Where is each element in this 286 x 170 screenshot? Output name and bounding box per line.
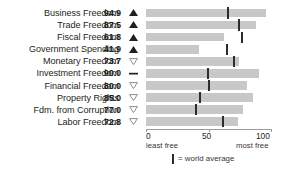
row-plot-area — [146, 80, 272, 92]
chart-row: Labor Freedom72.8 — [0, 116, 286, 128]
row-plot-area — [146, 19, 272, 31]
down-triangle-hollow-icon — [126, 104, 140, 116]
world-average-marker — [233, 56, 235, 67]
economic-freedoms-chart: INDONESIA'S ECONOMIC FREEDOMS Business F… — [0, 0, 286, 170]
row-value: 90.0 — [95, 67, 121, 79]
world-average-marker — [241, 32, 243, 43]
row-plot-area — [146, 116, 272, 128]
axis-tick — [271, 129, 272, 132]
row-plot-area — [146, 7, 272, 19]
row-plot-area — [146, 92, 272, 104]
chart-row: Monetary Freedom73.7 — [0, 55, 286, 67]
axis-tick-label: 50 — [202, 132, 211, 141]
row-plot-area — [146, 67, 272, 79]
chart-row: Fiscal Freedom61.8 — [0, 31, 286, 43]
row-plot-area — [146, 43, 272, 55]
up-triangle-filled-icon — [126, 43, 140, 55]
legend: = world average — [172, 153, 234, 165]
chart-row: Financial Freedom80.0 — [0, 80, 286, 92]
chart-row: Trade Freedom87.5 — [0, 19, 286, 31]
row-value: 80.0 — [95, 80, 121, 92]
row-plot-area — [146, 55, 272, 67]
chart-row: Business Freedom94.9 — [0, 7, 286, 19]
axis-tick-label: 0 — [146, 132, 151, 141]
row-value: 85.0 — [95, 92, 121, 104]
down-triangle-hollow-icon — [126, 92, 140, 104]
least-free-label: least free — [146, 141, 178, 150]
row-value: 41.9 — [95, 43, 121, 55]
row-value: 87.5 — [95, 19, 121, 31]
row-value: 77.0 — [95, 104, 121, 116]
row-plot-area — [146, 31, 272, 43]
world-average-marker — [199, 92, 201, 103]
world-average-marker — [195, 104, 197, 115]
world-average-marker — [208, 80, 210, 91]
chart-row: Fdm. from Corruption77.0 — [0, 104, 286, 116]
most-free-label: most free — [236, 141, 269, 150]
score-bar — [146, 117, 238, 126]
chart-rows: Business Freedom94.9Trade Freedom87.5Fis… — [0, 7, 286, 128]
row-value: 61.8 — [95, 31, 121, 43]
row-plot-area — [146, 104, 272, 116]
score-bar — [146, 69, 259, 78]
up-triangle-filled-icon — [126, 31, 140, 43]
up-triangle-filled-icon — [126, 19, 140, 31]
world-average-marker-icon — [172, 154, 174, 164]
chart-row: Property Rights85.0 — [0, 92, 286, 104]
score-bar — [146, 81, 247, 90]
score-bar — [146, 45, 199, 54]
chart-row: Investment Freedom90.0 — [0, 67, 286, 79]
world-average-marker — [227, 7, 229, 18]
world-average-marker — [238, 19, 240, 30]
down-triangle-hollow-icon — [126, 116, 140, 128]
down-triangle-hollow-icon — [126, 80, 140, 92]
flat-dash-icon — [126, 67, 140, 79]
score-bar — [146, 33, 224, 42]
up-triangle-filled-icon — [126, 7, 140, 19]
down-triangle-hollow-icon — [126, 55, 140, 67]
score-bar — [146, 57, 239, 66]
chart-row: Government Spending41.9 — [0, 43, 286, 55]
row-value: 94.9 — [95, 7, 121, 19]
axis-tick-label: 100 — [256, 132, 270, 141]
score-bar — [146, 9, 266, 18]
row-value: 73.7 — [95, 55, 121, 67]
row-value: 72.8 — [95, 116, 121, 128]
world-average-marker — [226, 44, 228, 55]
chart-title: INDONESIA'S ECONOMIC FREEDOMS — [62, 0, 262, 2]
world-average-marker — [207, 68, 209, 79]
legend-label: = world average — [178, 154, 234, 164]
world-average-marker — [222, 116, 224, 127]
